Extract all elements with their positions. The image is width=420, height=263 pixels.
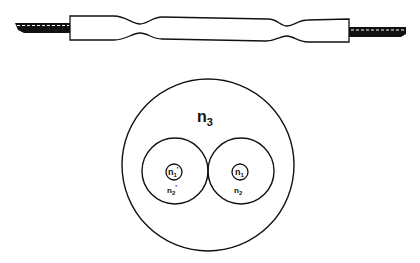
left-core-label: n1'	[168, 166, 179, 178]
right-core-label: n1	[235, 167, 245, 178]
coupler-side-view	[15, 16, 406, 42]
left-fiber: n1' n2'	[142, 138, 208, 204]
left-cladding-label: n2'	[167, 184, 177, 196]
coupler-diagram: n3 n1' n2' n1 n2	[0, 0, 420, 263]
right-fiber-lead	[349, 27, 406, 37]
outer-region-label: n3	[197, 108, 213, 128]
right-fiber: n1 n2	[208, 138, 274, 204]
cross-section: n3 n1' n2' n1 n2	[122, 79, 294, 251]
left-fiber-lead	[15, 23, 70, 33]
coupler-body	[70, 16, 349, 42]
right-cladding-label: n2	[234, 186, 243, 196]
